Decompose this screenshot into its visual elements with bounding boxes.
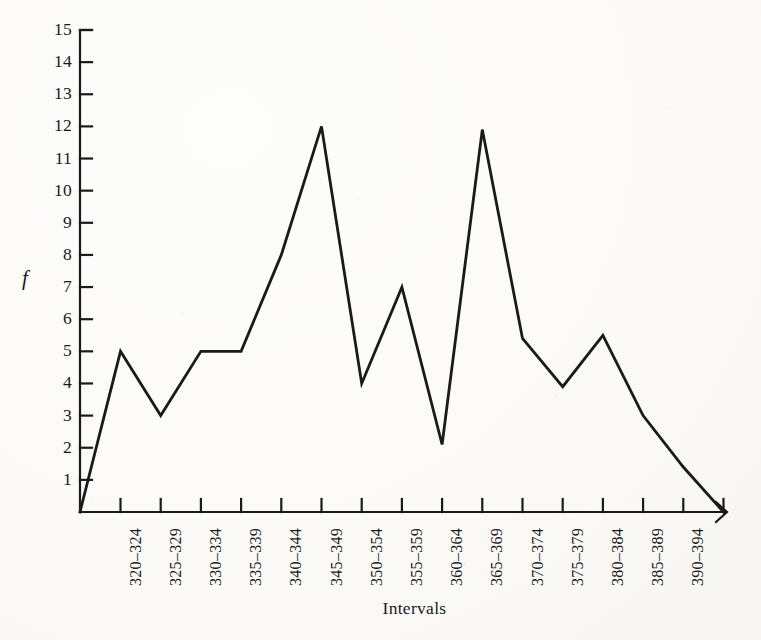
y-axis-tick-label: 14: [32, 53, 72, 71]
y-axis-tick-label: 13: [32, 85, 72, 103]
x-axis-tick-label: 375–379: [570, 528, 586, 586]
y-axis-label: f: [22, 268, 28, 289]
x-axis-tick-label: 335–339: [248, 528, 264, 586]
y-axis-tick-label: 4: [32, 374, 72, 392]
figure-canvas: 123456789101112131415 320–324325–329330–…: [0, 0, 761, 640]
y-axis-tick-label: 7: [32, 278, 72, 296]
y-axis-tick-label: 9: [32, 214, 72, 232]
x-axis-tick-label: 345–349: [329, 528, 345, 586]
x-axis-tick-label: 365–369: [489, 528, 505, 586]
frequency-polygon-line: [80, 126, 724, 512]
x-axis-tick-marks: [121, 499, 724, 512]
x-axis-tick-label: 350–354: [369, 528, 385, 586]
x-axis-tick-label: 325–329: [168, 528, 184, 586]
y-axis-tick-marks: [80, 30, 92, 480]
y-axis-tick-label: 6: [32, 310, 72, 328]
y-axis-tick-label: 10: [32, 182, 72, 200]
y-axis-tick-label: 3: [32, 407, 72, 425]
y-axis-tick-label: 5: [32, 342, 72, 360]
x-axis-tick-label: 380–384: [610, 528, 626, 586]
x-axis-tick-label: 320–324: [128, 528, 144, 586]
x-axis-tick-label: 390–394: [690, 528, 706, 586]
x-axis-tick-label: 385–389: [650, 528, 666, 586]
y-axis-tick-label: 15: [32, 21, 72, 39]
y-axis-tick-label: 11: [32, 150, 72, 168]
x-axis-tick-label: 355–359: [409, 528, 425, 586]
x-axis-tick-label: 360–364: [449, 528, 465, 586]
x-axis-tick-label: 330–334: [208, 528, 224, 586]
y-axis-tick-label: 1: [32, 471, 72, 489]
y-axis-tick-label: 12: [32, 117, 72, 135]
x-axis-tick-label: 340–344: [288, 528, 304, 586]
x-axis-tick-label: 370–374: [530, 528, 546, 586]
x-axis-label: Intervals: [0, 600, 761, 618]
y-axis-tick-label: 2: [32, 439, 72, 457]
y-axis-tick-label: 8: [32, 246, 72, 264]
